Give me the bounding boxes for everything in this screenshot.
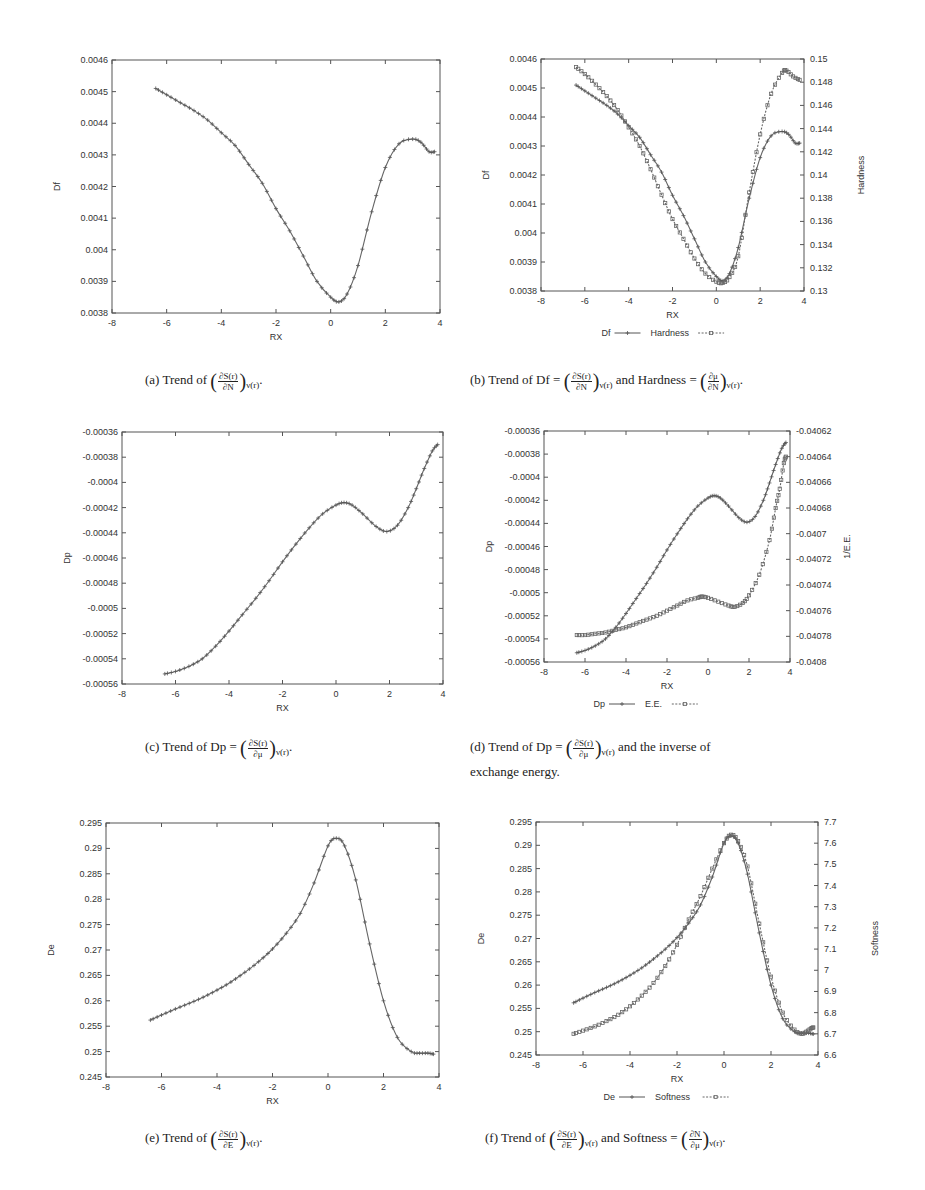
chart-d: -8-6-4-2024-0.00056-0.00054-0.00052-0.00… xyxy=(0,0,925,1190)
x-tick-label: 0 xyxy=(328,318,333,328)
chart-c: -8-6-4-2024-0.00056-0.00054-0.00052-0.00… xyxy=(0,0,925,1190)
caption-e: (e) Trend of (∂S(r)∂E)ν(r). xyxy=(145,1128,262,1153)
chart-b: -8-6-4-20240.00380.00390.0040.00410.0042… xyxy=(0,0,925,1190)
y-tick-label: 0.0038 xyxy=(80,308,108,318)
x-axis-label: RX xyxy=(266,1096,279,1106)
caption-b: (b) Trend of Df = (∂S(r)∂N)ν(r) and Hard… xyxy=(470,370,743,395)
x-tick-label: -6 xyxy=(581,296,589,306)
x-tick-label: 4 xyxy=(440,689,445,699)
y-tick-label: 0.0042 xyxy=(80,182,108,192)
y2-tick-label: 0.146 xyxy=(810,100,833,110)
y-axis-label: De xyxy=(46,944,56,956)
y-tick-label: 0.29 xyxy=(514,840,532,850)
x-tick-label: -4 xyxy=(625,296,633,306)
x-axis-label: RX xyxy=(270,332,283,342)
y-tick-label: -0.00044 xyxy=(504,518,540,528)
x-tick-label: -8 xyxy=(108,318,116,328)
series-de xyxy=(150,838,433,1054)
x-tick-label: -6 xyxy=(581,667,589,677)
legend-label: Dp xyxy=(593,699,605,709)
x-tick-label: -8 xyxy=(532,1060,540,1070)
y-tick-label: 0.0041 xyxy=(509,199,537,209)
plot-frame xyxy=(112,60,440,313)
y-tick-label: -0.00042 xyxy=(504,495,540,505)
y2-tick-label: 7.1 xyxy=(824,944,837,954)
y-tick-label: -0.0005 xyxy=(87,603,118,613)
x-tick-label: -8 xyxy=(102,1082,110,1092)
y2-tick-label: 0.144 xyxy=(810,124,833,134)
x-axis-label: RX xyxy=(671,1074,684,1084)
x-tick-label: 2 xyxy=(383,318,388,328)
x-axis-label: RX xyxy=(661,681,674,691)
y-tick-label: 0.265 xyxy=(509,957,532,967)
y2-tick-label: -0.04074 xyxy=(796,580,832,590)
y-tick-label: 0.26 xyxy=(514,980,532,990)
plot-frame xyxy=(536,822,818,1055)
plot-frame xyxy=(122,432,443,684)
y-tick-label: 0.285 xyxy=(509,864,532,874)
y2-tick-label: 7.2 xyxy=(824,923,837,933)
x-axis-label: RX xyxy=(276,703,289,713)
legend-label: E.E. xyxy=(645,699,662,709)
y-axis-label: De xyxy=(476,933,486,945)
y-tick-label: 0.25 xyxy=(84,1047,102,1057)
y-tick-label: 0.0043 xyxy=(80,150,108,160)
y2-tick-label: -0.04062 xyxy=(796,426,832,436)
y-tick-label: -0.00054 xyxy=(82,654,118,664)
x-tick-label: -4 xyxy=(626,1060,634,1070)
series-de xyxy=(574,836,814,1034)
caption-c: (c) Trend of Dp = (∂S(r)∂μ)ν(r). xyxy=(145,737,292,762)
y-tick-label: -0.00046 xyxy=(504,542,540,552)
y2-tick-label: 6.7 xyxy=(824,1029,837,1039)
y-tick-label: 0.27 xyxy=(514,934,532,944)
x-tick-label: 0 xyxy=(721,1060,726,1070)
x-tick-label: 4 xyxy=(437,318,442,328)
y-tick-label: 0.245 xyxy=(509,1050,532,1060)
y-tick-label: 0.0045 xyxy=(80,87,108,97)
y2-tick-label: -0.0408 xyxy=(796,657,827,667)
y-tick-label: 0.0044 xyxy=(509,112,537,122)
y-tick-label: 0.25 xyxy=(514,1027,532,1037)
y-tick-label: 0.0038 xyxy=(509,286,537,296)
x-tick-label: -8 xyxy=(537,296,545,306)
y2-axis-label: 1/E.E. xyxy=(842,534,852,559)
x-tick-label: 4 xyxy=(436,1082,441,1092)
caption-d: (d) Trend of Dp = (∂S(r)∂μ)ν(r) and the … xyxy=(470,737,910,782)
y-tick-label: -0.00038 xyxy=(82,452,118,462)
y2-tick-label: 0.148 xyxy=(810,77,833,87)
x-axis-label: RX xyxy=(666,310,679,320)
y-tick-label: 0.28 xyxy=(84,894,102,904)
y2-tick-label: -0.0407 xyxy=(796,529,827,539)
y-tick-label: 0.0046 xyxy=(80,55,108,65)
y-tick-label: 0.27 xyxy=(84,945,102,955)
x-tick-label: 0 xyxy=(705,667,710,677)
x-tick-label: -2 xyxy=(272,318,280,328)
x-tick-label: -6 xyxy=(163,318,171,328)
x-tick-label: -2 xyxy=(268,1082,276,1092)
caption-a: (a) Trend of (∂S(r)∂N)ν(r). xyxy=(145,370,262,395)
y2-tick-label: 7 xyxy=(824,965,829,975)
x-tick-label: 4 xyxy=(787,667,792,677)
y-tick-label: -0.00054 xyxy=(504,634,540,644)
y2-axis-label: Softness xyxy=(870,920,880,956)
y-tick-label: 0.004 xyxy=(85,245,108,255)
y2-tick-label: 6.8 xyxy=(824,1008,837,1018)
y-tick-label: -0.00052 xyxy=(82,629,118,639)
y-axis-label: Df xyxy=(52,182,62,191)
y-tick-label: 0.285 xyxy=(79,869,102,879)
y2-tick-label: -0.04064 xyxy=(796,452,832,462)
y2-tick-label: 0.134 xyxy=(810,240,833,250)
x-tick-label: -2 xyxy=(663,667,671,677)
y2-tick-label: -0.04066 xyxy=(796,477,832,487)
y2-tick-label: 7.7 xyxy=(824,817,837,827)
x-tick-label: -6 xyxy=(579,1060,587,1070)
x-tick-label: -6 xyxy=(171,689,179,699)
y-tick-label: -0.00048 xyxy=(504,565,540,575)
series-softness xyxy=(574,835,814,1034)
series-dp xyxy=(165,445,438,674)
y2-tick-label: -0.04072 xyxy=(796,554,832,564)
x-tick-label: 2 xyxy=(746,667,751,677)
y-tick-label: -0.00048 xyxy=(82,578,118,588)
x-tick-label: 0 xyxy=(333,689,338,699)
y-tick-label: 0.255 xyxy=(509,1003,532,1013)
